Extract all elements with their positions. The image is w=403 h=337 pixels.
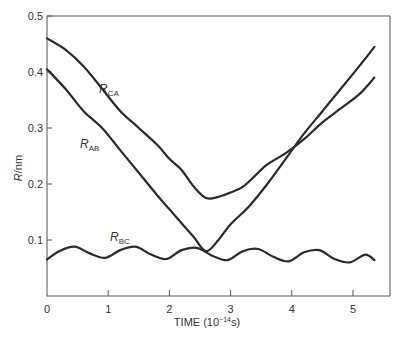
y-axis-title: R/nm [12,155,24,181]
x-tick-label: 1 [105,303,111,315]
y-tick-label: 0.2 [28,178,43,190]
x-axis-title: TIME (10−14s) [174,316,240,328]
y-tick-label: 0.4 [28,66,43,78]
label-rca: RCA [99,82,119,98]
chart: 0.10.20.30.40.5 012345 RCA RAB RBC R/nm … [0,0,403,337]
x-tick-label: 3 [228,303,234,315]
x-tick-label: 2 [166,303,172,315]
y-tick-label: 0.3 [28,122,43,134]
label-rbc: RBC [110,230,130,246]
y-tick-label: 0.1 [28,234,43,246]
x-tick-label: 5 [350,303,356,315]
label-rab: RAB [80,137,99,153]
x-tick-label: 0 [44,303,50,315]
y-tick-label: 0.5 [28,10,43,22]
curve-rca [47,38,374,198]
plot-frame [47,16,390,296]
x-tick-label: 4 [289,303,295,315]
y-axis: 0.10.20.30.40.5 [28,10,52,246]
x-axis: 012345 [44,290,356,315]
